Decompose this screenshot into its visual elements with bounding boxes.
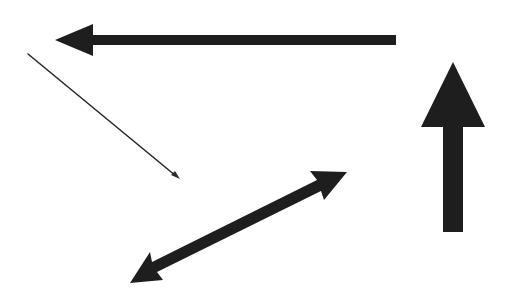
thin-diagonal-arrow-icon bbox=[28, 54, 180, 179]
thin-arrow-shaft bbox=[28, 54, 176, 176]
up-arrow-icon bbox=[421, 62, 485, 232]
left-arrow-icon bbox=[55, 24, 396, 56]
double-headed-arrow-icon bbox=[130, 171, 347, 283]
arrows-drawing bbox=[0, 0, 511, 298]
diagram-canvas bbox=[0, 0, 511, 298]
